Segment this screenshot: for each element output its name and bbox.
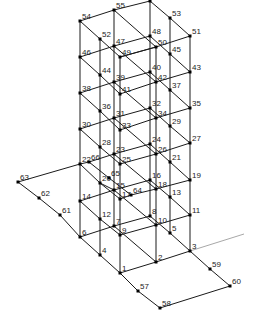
node-label: 26	[158, 145, 167, 154]
node-label: 2	[158, 253, 163, 262]
node-label: 60	[232, 277, 241, 286]
node-label: 21	[172, 153, 181, 162]
node-label: 15	[116, 181, 125, 190]
node-label: 53	[172, 9, 181, 18]
node-label: 5	[172, 224, 177, 233]
node-label: 4	[102, 246, 107, 255]
node-label: 27	[192, 134, 201, 143]
node-label: 47	[116, 37, 125, 46]
node-label: 24	[152, 135, 161, 144]
node-label: 13	[172, 188, 181, 197]
node-label: 48	[152, 27, 161, 36]
node-label: 61	[62, 206, 71, 215]
node-label: 10	[158, 216, 167, 225]
node-label: 9	[122, 226, 127, 235]
node-label: 62	[41, 189, 50, 198]
node-label: 18	[158, 180, 167, 189]
node-label: 50	[158, 38, 167, 47]
node-label: 59	[212, 260, 221, 269]
node-label: 6	[82, 228, 87, 237]
node-label: 66	[91, 153, 100, 162]
node-label: 58	[162, 299, 171, 308]
node-label: 29	[172, 117, 181, 126]
node-label: 1	[122, 264, 127, 273]
node-label: 19	[192, 171, 201, 180]
node-label: 12	[102, 210, 111, 219]
node-label: 16	[152, 171, 161, 180]
node-label: 64	[133, 186, 142, 195]
node-label: 54	[82, 12, 91, 21]
frame-structure-diagram: 1234567891011121314151617181920212223242…	[0, 0, 254, 325]
node-label: 11	[192, 206, 201, 215]
node-label: 33	[122, 121, 131, 130]
nodes: 1234567891011121314151617181920212223242…	[17, 0, 242, 310]
node-label: 38	[82, 84, 91, 93]
node-label: 36	[102, 102, 111, 111]
node-label: 37	[172, 81, 181, 90]
node-label: 32	[152, 99, 161, 108]
node-label: 65	[111, 169, 120, 178]
node-label: 25	[122, 155, 131, 164]
node-label: 57	[140, 282, 149, 291]
node-label: 35	[192, 99, 201, 108]
node-label: 63	[20, 173, 29, 182]
node-label: 44	[102, 66, 111, 75]
node-label: 34	[158, 109, 167, 118]
node-label: 51	[192, 27, 201, 36]
node-label: 45	[172, 45, 181, 54]
node-label: 46	[82, 48, 91, 57]
node-label: 31	[116, 109, 125, 118]
node-label: 23	[116, 145, 125, 154]
node-label: 39	[116, 73, 125, 82]
node-label: 42	[158, 73, 167, 82]
node-label: 30	[82, 120, 91, 129]
node-label: 8	[152, 207, 157, 216]
node-label: 55	[116, 1, 125, 10]
node-label: 14	[82, 192, 91, 201]
node-label: 7	[116, 217, 121, 226]
node-label: 3	[192, 242, 197, 251]
node-label: 28	[102, 138, 111, 147]
node-56	[149, 0, 152, 3]
node-label: 52	[102, 30, 111, 39]
node-label: 43	[192, 63, 201, 72]
node-label: 40	[152, 63, 161, 72]
node-label: 41	[122, 85, 131, 94]
node-label: 49	[122, 48, 131, 57]
